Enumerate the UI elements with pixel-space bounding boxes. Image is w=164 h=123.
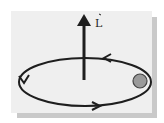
vector-label: L: [95, 17, 103, 30]
arrowhead-icon: [77, 14, 91, 26]
direction-arrow-top: [104, 54, 111, 62]
vector-mark: [99, 14, 101, 15]
orbit-diagram: L: [0, 0, 164, 123]
orbiting-ball: [133, 74, 147, 88]
